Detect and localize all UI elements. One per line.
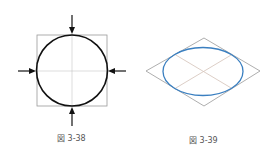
figure-3-38-drawing bbox=[0, 0, 272, 152]
arrow-top-icon bbox=[69, 15, 75, 34]
arrow-left-icon bbox=[18, 68, 36, 74]
arrow-bottom-icon bbox=[69, 107, 75, 126]
figure-3-39 bbox=[146, 38, 260, 106]
caption-figure-3-39: 図 3-39 bbox=[189, 134, 218, 145]
arrow-right-icon bbox=[108, 68, 126, 74]
figure-3-38 bbox=[18, 15, 126, 126]
caption-figure-3-38: 図 3-38 bbox=[57, 132, 86, 143]
